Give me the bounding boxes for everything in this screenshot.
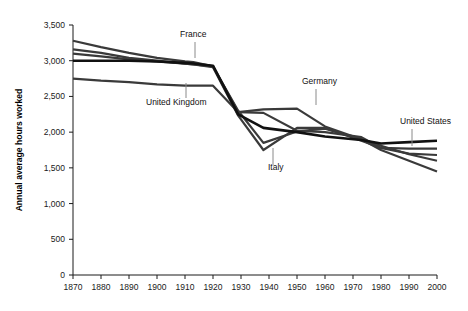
series-label-united-states: United States [400, 116, 451, 126]
x-axis-tick-label: 1910 [176, 282, 195, 292]
x-axis-tick-label: 1940 [260, 282, 279, 292]
y-axis-title-text: Annual average hours worked [14, 89, 24, 212]
y-axis-title: Annual average hours worked [14, 89, 24, 212]
series-label-germany: Germany [302, 76, 338, 86]
y-axis-tick-label: 2,500 [44, 91, 66, 101]
x-axis-tick-label: 2000 [428, 282, 447, 292]
series-label-france: France [180, 29, 207, 39]
series-line-germany [73, 49, 437, 171]
x-axis-tick-label: 1970 [344, 282, 363, 292]
line-chart: Annual average hours worked 05001,0001,5… [0, 0, 468, 311]
y-axis-tick-label: 500 [51, 234, 65, 244]
y-axis-tick-label: 3,500 [44, 20, 66, 30]
y-axis-tick-label: 1,500 [44, 163, 66, 173]
y-axis-tick-label: 3,000 [44, 56, 66, 66]
y-axis: 05001,0001,5002,0002,5003,0003,500 [44, 20, 73, 280]
x-axis-tick-label: 1960 [316, 282, 335, 292]
x-axis-tick-label: 1990 [400, 282, 419, 292]
series-label-united-kingdom: United Kingdom [146, 97, 206, 107]
y-axis-tick-label: 2,000 [44, 127, 66, 137]
x-axis-tick-label: 1890 [120, 282, 139, 292]
x-axis-tick-label: 1930 [232, 282, 251, 292]
series-line-italy [73, 54, 437, 155]
x-axis-tick-label: 1950 [288, 282, 307, 292]
series-lines [73, 41, 437, 172]
y-axis-tick-label: 1,000 [44, 199, 66, 209]
series-label-italy: Italy [268, 162, 284, 172]
x-axis-tick-label: 1900 [148, 282, 167, 292]
x-axis: 1870188018901900191019201930194019501960… [64, 275, 447, 292]
x-axis-tick-label: 1980 [372, 282, 391, 292]
x-axis-tick-label: 1880 [92, 282, 111, 292]
x-axis-tick-label: 1870 [64, 282, 83, 292]
y-axis-tick-label: 0 [60, 270, 65, 280]
x-axis-tick-label: 1920 [204, 282, 223, 292]
series-annotations: FranceUnited KingdomGermanyItalyUnited S… [146, 29, 451, 172]
chart-container: Annual average hours worked 05001,0001,5… [0, 0, 468, 311]
